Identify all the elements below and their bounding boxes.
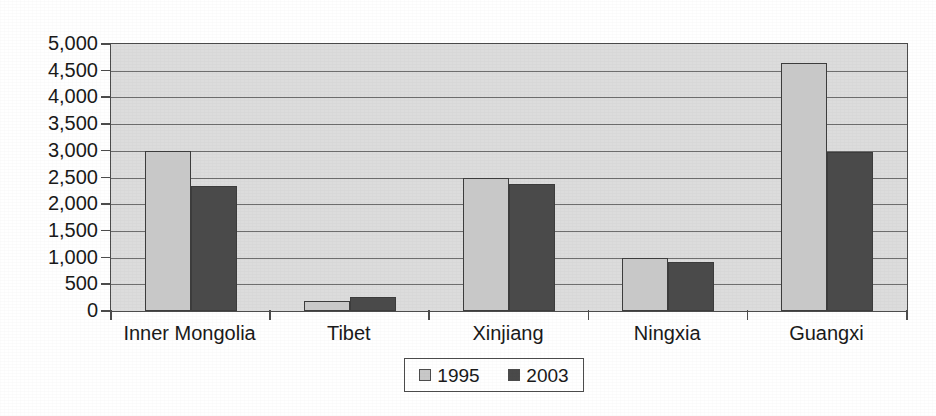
y-tick-label: 4,500	[0, 60, 98, 80]
bar-ningxia-1995	[622, 258, 668, 311]
x-category-label: Guangxi	[747, 320, 906, 346]
bar-inner-mongolia-1995	[145, 151, 191, 311]
bars-layer	[111, 44, 907, 311]
x-category-label: Xinjiang	[428, 320, 587, 346]
x-tick-mark	[747, 310, 749, 320]
y-tick-label: 5,000	[0, 33, 98, 53]
x-tick-mark	[588, 310, 590, 320]
y-tick-label: 1,000	[0, 247, 98, 267]
bar-guangxi-2003	[827, 152, 873, 311]
bar-tibet-1995	[304, 301, 350, 311]
y-tick-mark	[101, 230, 110, 232]
plot-area	[110, 43, 908, 312]
bar-guangxi-1995	[781, 63, 827, 311]
x-axis-ticks	[110, 310, 906, 320]
chart-legend: 1995 2003	[404, 358, 584, 392]
bar-inner-mongolia-2003	[191, 186, 237, 311]
legend-swatch-2003	[508, 369, 520, 381]
y-tick-mark	[101, 257, 110, 259]
y-tick-label: 3,000	[0, 140, 98, 160]
y-tick-label: 2,000	[0, 193, 98, 213]
y-tick-mark	[101, 43, 110, 45]
legend-label-1995: 1995	[437, 366, 479, 385]
y-tick-label: 0	[0, 300, 98, 320]
legend-swatch-1995	[419, 369, 431, 381]
y-tick-mark	[101, 96, 110, 98]
y-tick-mark	[101, 283, 110, 285]
y-tick-mark	[101, 123, 110, 125]
y-tick-label: 500	[0, 273, 98, 293]
y-tick-mark	[101, 70, 110, 72]
legend-item-2003: 2003	[508, 366, 568, 385]
y-tick-label: 1,500	[0, 220, 98, 240]
bar-chart-figure: 5,0004,5004,0003,5003,0002,5002,0001,500…	[0, 0, 936, 416]
y-tick-label: 2,500	[0, 167, 98, 187]
x-category-label: Tibet	[269, 320, 428, 346]
y-tick-label: 4,000	[0, 86, 98, 106]
bar-ningxia-2003	[668, 262, 714, 311]
y-tick-mark	[101, 203, 110, 205]
y-tick-mark	[101, 310, 110, 312]
legend-item-1995: 1995	[419, 366, 479, 385]
x-tick-mark	[906, 310, 908, 320]
y-tick-mark	[101, 150, 110, 152]
x-category-label: Ningxia	[588, 320, 747, 346]
bar-xinjiang-2003	[509, 184, 555, 311]
x-tick-mark	[428, 310, 430, 320]
y-tick-mark	[101, 177, 110, 179]
bar-tibet-2003	[350, 297, 396, 311]
x-axis-category-labels: Inner MongoliaTibetXinjiangNingxiaGuangx…	[110, 320, 906, 350]
x-tick-mark	[269, 310, 271, 320]
x-tick-mark	[110, 310, 112, 320]
bar-xinjiang-1995	[463, 178, 509, 311]
y-axis: 5,0004,5004,0003,5003,0002,5002,0001,500…	[0, 43, 98, 310]
y-tick-label: 3,500	[0, 113, 98, 133]
legend-label-2003: 2003	[526, 366, 568, 385]
x-category-label: Inner Mongolia	[110, 320, 269, 346]
